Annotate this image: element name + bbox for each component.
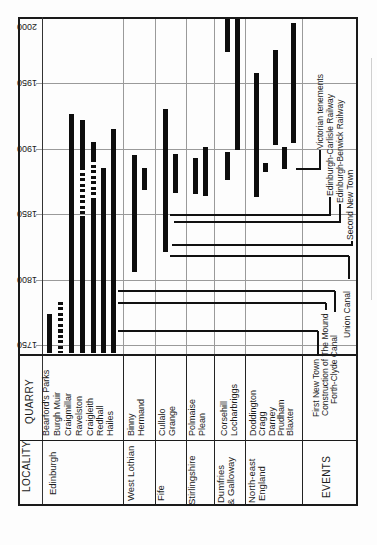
quarry-bar	[263, 163, 268, 172]
event-line	[170, 255, 349, 257]
table-group-divider	[123, 354, 124, 504]
quarry-bar	[132, 155, 137, 272]
event-label: Edinburgh-Carlisle Railway	[326, 94, 335, 196]
quarry-bar	[91, 200, 96, 353]
event-leader-stub	[351, 241, 353, 246]
quarry-bar	[193, 158, 198, 195]
quarry-label: Binny	[126, 413, 136, 436]
locality-label: Stirlingshire	[187, 455, 197, 505]
quarry-bar	[254, 73, 259, 197]
event-label: Forth-Clyde Canal	[330, 335, 339, 404]
quarry-label: Redhall	[95, 405, 105, 436]
frame-top	[18, 17, 358, 19]
quarry-label: Craigmillar	[63, 393, 73, 436]
quarry-bar	[163, 109, 168, 252]
event-leader-stub	[325, 303, 327, 310]
event-line	[172, 244, 352, 246]
locality-label: Edinburgh	[48, 452, 58, 495]
event-label: Edinburgh-Berwick Railway	[336, 100, 345, 203]
event-line	[118, 290, 335, 292]
year-tick-label: 1800	[15, 275, 39, 285]
quarry-label: Hermand	[136, 399, 146, 436]
scan-artifact-line	[371, 58, 372, 300]
quarry-bar	[225, 19, 230, 52]
quarry-bar	[80, 120, 85, 167]
locality-label: England	[257, 466, 267, 501]
quarry-column-header: QUARRY	[25, 379, 35, 424]
quarry-bar	[91, 159, 96, 200]
table-group-divider	[302, 354, 303, 504]
event-leader-stub	[329, 197, 331, 216]
event-line	[174, 221, 340, 223]
year-tick-label: 2000	[15, 22, 39, 32]
quarry-label: Locharbriggs	[229, 384, 239, 436]
quarry-bar	[282, 147, 287, 169]
year-tick-label: 1750	[15, 340, 39, 350]
event-line	[296, 168, 321, 170]
quarry-bar	[47, 314, 52, 353]
quarry-bar	[91, 142, 96, 159]
quarry-bar	[273, 50, 278, 144]
quarry-label: Plean	[197, 413, 207, 436]
quarry-label: Cullalo	[157, 408, 167, 436]
quarry-bar	[142, 168, 147, 190]
event-line	[118, 302, 326, 304]
year-tick-label: 1950	[15, 78, 39, 88]
quarry-label: Corsehill	[219, 401, 229, 436]
quarry-label: Bearford's Parks	[41, 370, 51, 436]
quarry-label: Blaxter	[285, 408, 295, 436]
event-label: Union Canal	[343, 291, 352, 338]
quarry-bar	[101, 168, 106, 353]
quarry-label: Polmaise	[187, 399, 197, 436]
events-row-header: EVENTS	[322, 456, 332, 498]
quarry-label: Grange	[167, 406, 177, 436]
quarry-bar	[111, 129, 116, 353]
locality-label: & Galloway	[226, 457, 236, 505]
locality-label: West Lothian	[126, 446, 136, 501]
quarry-bar	[80, 167, 85, 219]
event-label: Second New Town	[346, 170, 355, 240]
event-line	[118, 330, 318, 332]
table-row-divider	[18, 440, 358, 441]
quarry-bar	[173, 154, 178, 193]
quarry-label: Burgh Muir	[52, 392, 62, 436]
event-leader-stub	[348, 256, 350, 279]
table-top-border	[18, 354, 358, 356]
quarry-bar	[235, 19, 240, 150]
quarry-bar	[80, 219, 85, 353]
quarry-label: Hailes	[105, 411, 115, 436]
quarry-label: Craigleith	[85, 398, 95, 436]
event-label: Victorian tenements	[316, 74, 325, 149]
quarry-label: Ravelston	[74, 396, 84, 436]
year-tick-label: 1900	[15, 144, 39, 154]
quarry-bar	[69, 114, 74, 352]
quarry-bar	[291, 23, 296, 144]
locality-label: Fife	[156, 485, 166, 501]
frame-right	[356, 17, 358, 506]
quarry-label: Cragg	[257, 411, 267, 436]
event-leader-stub	[317, 331, 319, 356]
quarry-bar	[225, 152, 230, 180]
table-group-divider	[155, 354, 156, 504]
grid-line-1950	[36, 83, 357, 84]
locality-column-header: LOCALITY	[22, 440, 32, 492]
year-tick-label: 1850	[15, 209, 39, 219]
event-leader-stub	[319, 150, 321, 170]
event-line	[170, 214, 330, 216]
quarry-bar	[58, 302, 63, 353]
event-leader-stub	[339, 204, 341, 223]
quarry-bar	[203, 147, 208, 195]
rotated-quarry-timeline-figure: 200019501900185018001750Bearford's Parks…	[0, 0, 377, 545]
frame-left	[18, 17, 20, 506]
event-leader-stub	[334, 291, 336, 312]
